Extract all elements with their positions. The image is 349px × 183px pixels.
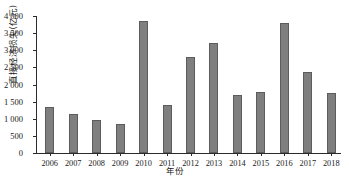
bar [45,107,54,153]
plot-area: 05001 0001 5002 0002 5003 0003 5004 000 … [36,16,341,153]
x-axis-title: 年份 [0,164,349,176]
y-tick-label: 500 [0,132,23,141]
bar [233,95,242,153]
y-tick-label: 1 000 [0,115,23,124]
y-tick-label: 4 000 [0,12,23,21]
x-tick-mark [120,153,121,156]
y-tick-label: 0 [0,149,23,158]
bar [209,43,218,153]
y-tick-label: 2 500 [0,63,23,72]
bar [116,124,125,153]
bar [327,93,336,153]
x-tick-mark [331,153,332,156]
x-tick-mark [191,153,192,156]
y-tick-label: 3 500 [0,29,23,38]
bar [303,72,312,154]
bar [186,57,195,153]
bar [163,105,172,153]
y-tick-label: 3 000 [0,46,23,55]
bar [256,92,265,153]
bar [280,23,289,153]
x-tick-mark [284,153,285,156]
x-tick-mark [73,153,74,156]
y-tick-mark [33,153,37,154]
bar-chart: 直接经济损失(亿元) 05001 0001 5002 0002 5003 000… [0,0,349,183]
bars-layer [36,16,341,153]
x-tick-mark [167,153,168,156]
x-tick-mark [237,153,238,156]
bar [139,21,148,153]
bar [69,114,78,153]
x-axis-line [36,153,341,154]
y-tick-label: 2 000 [0,81,23,90]
x-tick-mark [97,153,98,156]
x-tick-mark [214,153,215,156]
x-tick-mark [308,153,309,156]
x-tick-mark [50,153,51,156]
bar [92,120,101,153]
x-tick-mark [261,153,262,156]
y-tick-label: 1 500 [0,98,23,107]
x-tick-mark [144,153,145,156]
